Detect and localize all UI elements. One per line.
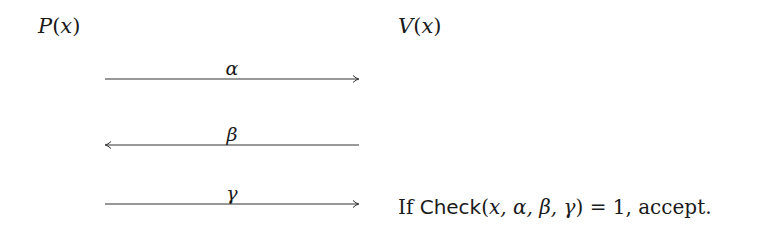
check-function: Check bbox=[420, 195, 482, 219]
verifier-label: V(x) bbox=[398, 14, 441, 38]
prover-paren-close: ) bbox=[72, 14, 80, 38]
verifier-name: V bbox=[398, 14, 413, 38]
prover-label: P(x) bbox=[38, 14, 80, 38]
decision-result: ) = 1, accept. bbox=[575, 195, 711, 219]
message-alpha: α bbox=[105, 79, 359, 99]
verifier-decision: If Check(x, α, β, γ) = 1, accept. bbox=[398, 195, 712, 219]
prover-arg: x bbox=[60, 14, 72, 38]
decision-prefix: If bbox=[398, 195, 420, 219]
decision-open: ( bbox=[481, 195, 489, 219]
arrow-left-icon bbox=[105, 141, 361, 149]
prover-name: P bbox=[38, 14, 52, 38]
arrow-right-icon bbox=[105, 75, 361, 83]
check-args: x, α, β, γ bbox=[489, 195, 575, 219]
message-beta: β bbox=[105, 145, 359, 165]
verifier-arg: x bbox=[421, 14, 433, 38]
message-gamma: γ bbox=[105, 204, 359, 224]
verifier-paren-close: ) bbox=[433, 14, 441, 38]
arrow-right-icon bbox=[105, 200, 361, 208]
